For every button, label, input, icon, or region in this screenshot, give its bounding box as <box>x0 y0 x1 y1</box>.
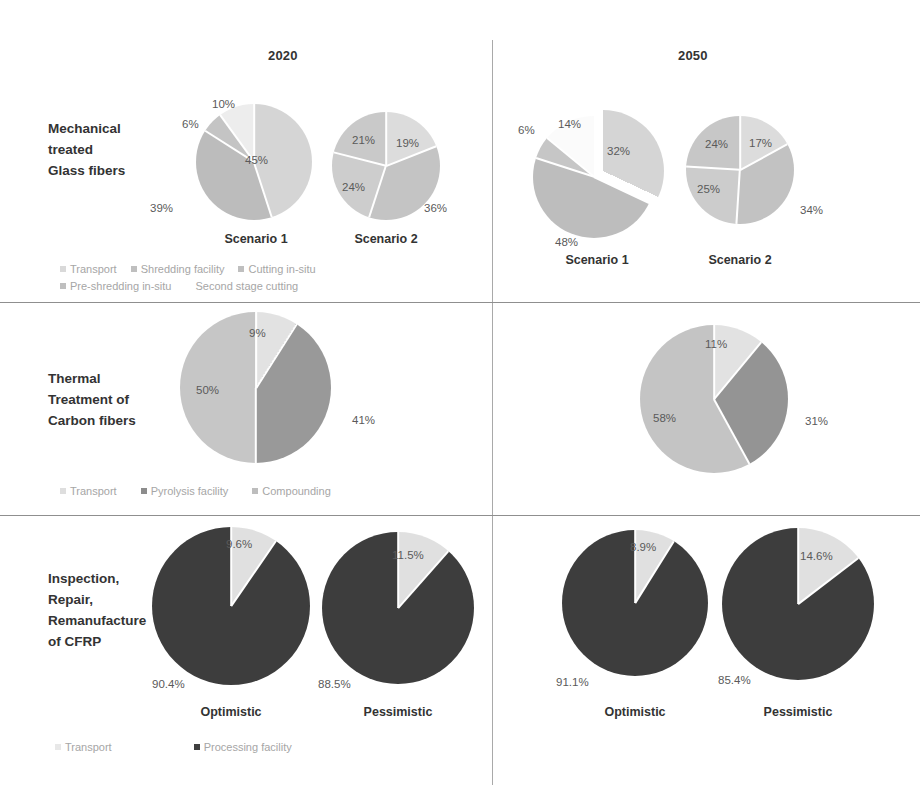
legend-item: Shredding facility <box>131 262 225 276</box>
pie-value-label: 85.4% <box>718 674 751 686</box>
legend-item: Second stage cutting <box>186 279 299 293</box>
pie-value-label: 58% <box>653 412 676 424</box>
pie-slice-separator <box>735 170 741 224</box>
pie-slice-separator <box>254 388 256 464</box>
row-label-line: Mechanical <box>48 118 125 139</box>
legend-item: Processing facility <box>194 740 292 754</box>
row-label-line: Glass fibers <box>48 160 125 181</box>
row-label-line: of CFRP <box>48 631 146 652</box>
row-label-line: Carbon fibers <box>48 410 136 431</box>
legend-item: Transport <box>60 262 117 276</box>
pie-caption-scenario-2: Scenario 2 <box>332 232 440 246</box>
pie-caption-pessimistic: Pessimistic <box>722 705 874 719</box>
pie-value-label: 14% <box>558 118 581 130</box>
pie-caption-pessimistic: Pessimistic <box>322 705 474 719</box>
row-divider-2 <box>0 515 920 516</box>
legend-swatch-icon <box>60 488 66 494</box>
pie-value-label: 17% <box>749 137 772 149</box>
pie-value-label: 10% <box>212 98 235 110</box>
pie-value-label: 45% <box>245 154 268 166</box>
pie-value-label: 24% <box>342 181 365 193</box>
pie-slice-separator <box>368 166 387 218</box>
legend-row-glass-fibers: Transport Shredding facility Cutting in-… <box>60 262 330 296</box>
legend-label: Compounding <box>262 484 331 498</box>
legend-swatch-icon <box>238 266 244 272</box>
row-label-carbon-fibers: Thermal Treatment of Carbon fibers <box>48 368 136 431</box>
legend-swatch-icon <box>186 283 192 289</box>
pie-slice-separator <box>254 312 256 388</box>
legend-label: Second stage cutting <box>196 279 299 293</box>
legend-item: Pyrolysis facility <box>141 484 229 498</box>
legend-line: Transport Processing facility <box>55 740 306 754</box>
legend-line: Transport Pyrolysis facility Compounding <box>60 484 345 498</box>
pie-caption-scenario-1: Scenario 1 <box>533 253 661 267</box>
legend-swatch-icon <box>60 266 66 272</box>
legend-item: Transport <box>55 740 112 754</box>
pie-caption-optimistic: Optimistic <box>562 705 708 719</box>
pie-caption-scenario-1: Scenario 1 <box>198 232 314 246</box>
pie-value-label: 88.5% <box>318 678 351 690</box>
row-label-line: Remanufacture <box>48 610 146 631</box>
legend-label: Transport <box>65 740 112 754</box>
legend-swatch-icon <box>141 488 147 494</box>
pie-slice-separator <box>713 398 751 464</box>
pie-value-label: 21% <box>352 134 375 146</box>
pie-value-label: 25% <box>697 183 720 195</box>
row-label-glass-fibers: Mechanical treated Glass fibers <box>48 118 125 181</box>
pie-slice-separator <box>713 341 762 400</box>
pie-slice-separator <box>686 165 740 171</box>
pie-chart-cfrp-2020-optimistic <box>152 527 310 685</box>
legend-item: Pre-shredding in-situ <box>60 279 172 293</box>
pie-slice-separator <box>397 532 399 608</box>
column-divider <box>492 40 493 785</box>
pie-value-label: 39% <box>150 202 173 214</box>
legend-label: Transport <box>70 262 117 276</box>
pie-chart-glass-2050-s1 <box>533 110 661 238</box>
pie-value-label: 19% <box>396 137 419 149</box>
legend-label: Cutting in-situ <box>248 262 315 276</box>
legend-swatch-icon <box>252 488 258 494</box>
legend-label: Shredding facility <box>141 262 225 276</box>
pie-value-label: 24% <box>705 138 728 150</box>
legend-row-cfrp: Transport Processing facility <box>55 740 306 757</box>
legend-row-carbon-fibers: Transport Pyrolysis facility Compounding <box>60 484 345 501</box>
pie-caption-scenario-2: Scenario 2 <box>686 253 794 267</box>
legend-swatch-icon <box>55 744 61 750</box>
pie-value-label: 48% <box>555 236 578 248</box>
pie-value-label: 91.1% <box>556 676 589 688</box>
pie-value-label: 14.6% <box>800 550 833 562</box>
pie-value-label: 6% <box>182 118 199 130</box>
figure-canvas: 2020 2050 Mechanical treated Glass fiber… <box>0 0 920 797</box>
row-label-line: treated <box>48 139 125 160</box>
pie-value-label: 36% <box>424 202 447 214</box>
pie-caption-optimistic: Optimistic <box>152 705 310 719</box>
pie-value-label: 50% <box>196 384 219 396</box>
legend-swatch-icon <box>60 283 66 289</box>
legend-swatch-icon <box>131 266 137 272</box>
pie-value-label: 9% <box>249 327 266 339</box>
pie-disc <box>152 527 310 685</box>
row-label-line: Repair, <box>48 589 146 610</box>
pie-slice-separator <box>797 557 859 605</box>
pie-value-label: 6% <box>518 124 535 136</box>
pie-value-label: 34% <box>800 204 823 216</box>
pie-value-label: 8.9% <box>630 541 656 553</box>
pie-slice-separator <box>797 528 799 604</box>
legend-item: Compounding <box>252 484 331 498</box>
pie-value-label: 90.4% <box>152 678 185 690</box>
column-header-2050: 2050 <box>678 48 708 63</box>
legend-label: Processing facility <box>204 740 292 754</box>
legend-label: Pre-shredding in-situ <box>70 279 172 293</box>
pie-chart-cfrp-2050-pessimistic <box>722 528 874 680</box>
pie-value-label: 41% <box>352 414 375 426</box>
pie-value-label: 31% <box>805 415 828 427</box>
pie-value-label: 11.5% <box>392 549 424 561</box>
legend-item: Transport <box>60 484 117 498</box>
row-label-line: Treatment of <box>48 389 136 410</box>
column-header-2020: 2020 <box>268 48 298 63</box>
legend-swatch-icon <box>194 744 200 750</box>
pie-slice-separator <box>385 112 387 166</box>
legend-line: Pre-shredding in-situ Second stage cutti… <box>60 279 330 293</box>
pie-slice-separator <box>713 325 715 399</box>
legend-item: Cutting in-situ <box>238 262 315 276</box>
